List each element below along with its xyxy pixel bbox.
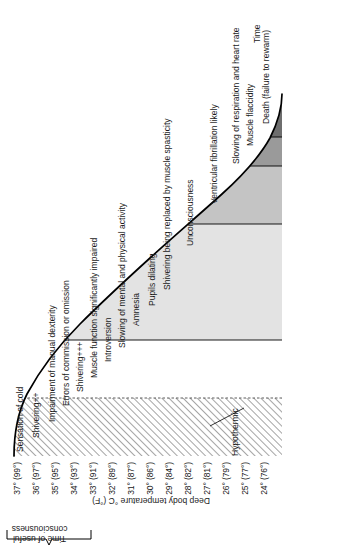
bracket-label: Time of useful consciousness bbox=[0, 523, 83, 542]
tick-label: 25° (77°) bbox=[240, 462, 250, 518]
symptom-label: Slowing of respiration and heart rate bbox=[232, 27, 241, 164]
tick-label: 27° (81°) bbox=[202, 462, 212, 518]
hypothermic-callout: Hypothermic bbox=[230, 408, 240, 456]
y-axis-title: Deep body temperature °C (°F) bbox=[56, 496, 246, 506]
symptom-label: Errors of commission or omission bbox=[62, 280, 71, 406]
tick-label: 29° (84°) bbox=[164, 462, 174, 518]
symptom-label: Muscle flaccidity bbox=[246, 84, 255, 146]
tick-label: 36° (97°) bbox=[31, 462, 41, 518]
tick-label: 30° (86°) bbox=[145, 462, 155, 518]
symptom-label: Impairment of manual dexterity bbox=[48, 305, 57, 422]
symptom-label: Pupils dilating bbox=[148, 254, 157, 306]
tick-label: 34° (93°) bbox=[69, 462, 79, 518]
symptom-label: Ventricular fibrillation likely bbox=[210, 104, 219, 204]
tick-label: 31° (87°) bbox=[126, 462, 136, 518]
band-darkest bbox=[14, 52, 282, 137]
tick-label: 26° (79°) bbox=[221, 462, 231, 518]
tick-label: 33° (91°) bbox=[88, 462, 98, 518]
tick-label: 35° (95°) bbox=[50, 462, 60, 518]
symptom-label: Introversion bbox=[104, 318, 113, 362]
tick-label: 32° (89°) bbox=[107, 462, 117, 518]
tick-label: 24° (76°) bbox=[259, 462, 269, 518]
symptom-label: Amnesia bbox=[132, 293, 141, 326]
chart-canvas: 37° (99°) 36° (97°) 35° (95°) 34° (93°) … bbox=[0, 0, 360, 548]
bracket-label-line1: Time of useful bbox=[0, 533, 83, 543]
symptom-label: Muscle function significantly impaired bbox=[90, 238, 99, 378]
symptom-label: Slowing of mental and physical activity bbox=[118, 203, 127, 348]
tick-label: 37° (99°) bbox=[12, 462, 22, 518]
band-dark bbox=[14, 137, 282, 166]
symptom-label: Shivering+++ bbox=[76, 342, 85, 392]
symptom-label: Death (failure to rewarm) bbox=[262, 30, 271, 124]
symptom-label: Sensation of cold bbox=[16, 387, 25, 452]
hypothermia-figure: 37° (99°) 36° (97°) 35° (95°) 34° (93°) … bbox=[0, 0, 360, 548]
bracket-label-line2: consciousness bbox=[0, 523, 83, 533]
symptom-label: Shivering++ bbox=[32, 393, 41, 438]
symptom-label: Shivering being replaced by muscle spast… bbox=[163, 118, 172, 290]
tick-label: 28° (82°) bbox=[183, 462, 193, 518]
symptom-label: Unconsciousness bbox=[186, 179, 195, 246]
